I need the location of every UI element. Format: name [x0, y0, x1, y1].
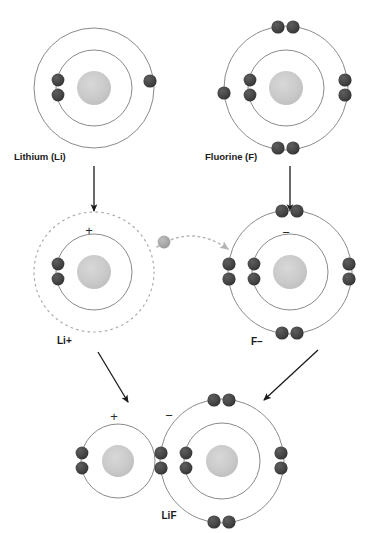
arrow-lithium-ion-to-lif	[98, 352, 128, 402]
lithium-nucleus	[77, 71, 111, 105]
valence-electron	[222, 515, 235, 528]
fluoride-ion-charge-sign: −	[282, 225, 290, 240]
electron	[180, 447, 193, 460]
electron	[52, 89, 65, 102]
valence-electron	[207, 393, 220, 406]
fluoride-ion-nucleus	[273, 255, 307, 289]
valence-electron	[286, 20, 299, 33]
transferring-electron	[158, 236, 171, 249]
lithium-ion-label: Li+	[57, 335, 72, 346]
electron	[76, 462, 89, 475]
electron	[248, 273, 261, 286]
electron	[52, 273, 65, 286]
valence-electron	[222, 393, 235, 406]
lif-lithium-ion: +	[76, 409, 155, 498]
fluorine-atom-label: Fluorine (F)	[205, 151, 257, 162]
lif-fluoride-ion: −	[154, 393, 287, 528]
valence-electron	[222, 272, 235, 285]
valence-electron	[275, 204, 288, 217]
valence-electron	[342, 257, 355, 270]
valence-electron	[290, 326, 303, 339]
electron	[180, 462, 193, 475]
lithium-ion-charge-sign: +	[85, 223, 93, 238]
row-ions: + Li+	[34, 204, 356, 347]
valence-electron	[290, 204, 303, 217]
valence-electron	[271, 141, 284, 154]
electron	[52, 258, 65, 271]
lithium-ion-nucleus	[77, 255, 111, 289]
fluorine-nucleus	[269, 71, 303, 105]
valence-electron	[271, 20, 284, 33]
valence-electron	[274, 461, 287, 474]
valence-electron	[217, 86, 230, 99]
electron	[52, 74, 65, 87]
electron	[244, 89, 257, 102]
diagram-canvas: Lithium (Li) Fluorine (F)	[0, 0, 390, 533]
valence-electron	[342, 272, 355, 285]
ionic-bonding-diagram: Lithium (Li) Fluorine (F)	[0, 0, 390, 533]
valence-electron	[275, 326, 288, 339]
arrow-fluoride-ion-to-lif	[264, 350, 318, 400]
lif-lithium-nucleus	[102, 445, 134, 477]
lithium-ion: + Li+	[34, 212, 154, 346]
valence-electron	[207, 515, 220, 528]
lif-compound-label: LiF	[162, 510, 177, 521]
lif-fluoride-charge-sign: −	[165, 408, 173, 423]
lithium-atom: Lithium (Li)	[14, 28, 157, 162]
fluoride-ion-label: F−	[251, 336, 263, 347]
fluorine-atom: Fluorine (F)	[205, 20, 352, 162]
electron	[248, 258, 261, 271]
valence-electron	[338, 73, 351, 86]
lif-compound: + − LiF	[76, 393, 288, 528]
valence-electron	[154, 446, 167, 459]
fluoride-ion: − F−	[222, 204, 355, 347]
valence-electron	[274, 446, 287, 459]
valence-electron	[143, 74, 156, 87]
lif-lithium-charge-sign: +	[110, 409, 118, 424]
valence-electron	[154, 461, 167, 474]
electron	[244, 74, 257, 87]
lithium-atom-label: Lithium (Li)	[14, 151, 66, 162]
lif-fluoride-nucleus	[206, 445, 238, 477]
valence-electron	[222, 257, 235, 270]
electron-transfer-group	[157, 236, 228, 249]
row-neutral-atoms: Lithium (Li) Fluorine (F)	[14, 20, 352, 162]
electron	[76, 447, 89, 460]
valence-electron	[338, 88, 351, 101]
valence-electron	[286, 141, 299, 154]
